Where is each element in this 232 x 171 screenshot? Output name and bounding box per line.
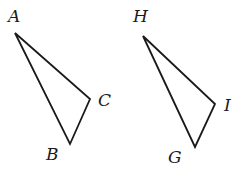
triangle-hig — [143, 36, 215, 147]
vertex-label-g: G — [168, 147, 182, 167]
vertex-label-a: A — [6, 6, 20, 26]
triangle-abc — [15, 33, 90, 144]
vertex-label-c: C — [98, 90, 111, 110]
vertex-label-i: I — [223, 95, 231, 115]
vertex-label-h: H — [132, 6, 149, 26]
triangles-figure: A C B H I G — [0, 0, 232, 171]
vertex-label-b: B — [45, 144, 59, 164]
